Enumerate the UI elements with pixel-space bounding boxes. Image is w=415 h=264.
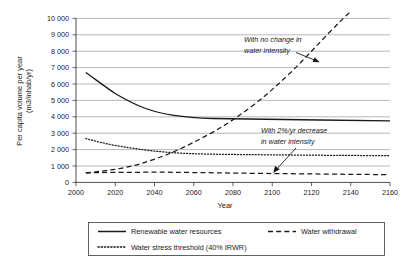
y-tick-label: 1 000 — [51, 162, 69, 171]
y-tick-label: 7 000 — [51, 63, 69, 72]
legend-label-withdrawal: Water withdrawal — [301, 227, 357, 236]
x-tick-label: 2140 — [343, 188, 359, 197]
y-axis — [73, 18, 77, 182]
chart-canvas: 10 000 9 000 8 000 7 000 6 000 5 000 4 0… — [0, 0, 415, 264]
x-tick-label: 2120 — [304, 188, 320, 197]
y-tick-label: 2 000 — [51, 145, 69, 154]
annotation-no-change-line2: water intensity — [244, 46, 290, 55]
x-axis — [76, 182, 390, 186]
legend: Renewable water resources Water withdraw… — [89, 223, 385, 256]
x-tick-label: 2080 — [225, 188, 241, 197]
annotation-no-change: With no change in water intensity — [244, 35, 320, 62]
x-tick-label: 2000 — [68, 188, 84, 197]
y-tick-labels: 10 000 9 000 8 000 7 000 6 000 5 000 4 0… — [47, 14, 69, 187]
y-tick-label: 6 000 — [51, 80, 69, 89]
x-tick-label: 2020 — [107, 188, 123, 197]
annotation-no-change-line1: With no change in — [244, 35, 301, 44]
legend-item-threshold[interactable]: Water stress threshold (40% IRWR) — [98, 243, 247, 252]
annotation-decrease-line1: With 2%/yr decrease — [261, 126, 327, 135]
x-tick-label: 2040 — [147, 188, 163, 197]
legend-label-threshold: Water stress threshold (40% IRWR) — [131, 243, 247, 252]
y-tick-label: 3 000 — [51, 129, 69, 138]
data-series — [86, 12, 390, 175]
y-tick-label: 8 000 — [51, 47, 69, 56]
gridlines — [76, 18, 390, 166]
annotation-no-change-arrowhead — [313, 57, 320, 62]
annotation-decrease-line2: in water intensity — [261, 137, 315, 146]
chart-figure: 10 000 9 000 8 000 7 000 6 000 5 000 4 0… — [0, 0, 415, 264]
y-tick-label: 0 — [65, 178, 69, 187]
water-withdrawal-decrease-series — [86, 172, 388, 174]
renewable-water-resources-series — [86, 73, 390, 121]
x-tick-labels: 2000 2020 2040 2060 2080 2100 2120 2140 … — [68, 188, 398, 197]
x-tick-label: 2100 — [264, 188, 280, 197]
y-tick-label: 10 000 — [47, 14, 69, 23]
legend-item-renewable[interactable]: Renewable water resources — [98, 227, 222, 236]
legend-item-withdrawal[interactable]: Water withdrawal — [268, 227, 357, 236]
annotation-decrease-arrow — [275, 148, 296, 171]
y-tick-label: 5 000 — [51, 96, 69, 105]
y-tick-label: 9 000 — [51, 30, 69, 39]
legend-label-renewable: Renewable water resources — [131, 227, 222, 236]
y-axis-title: Per capita volume per year (m3/inhab/yr) — [15, 54, 33, 146]
x-axis-title: Year — [217, 201, 233, 210]
water-withdrawal-no-change-series — [86, 12, 351, 173]
x-tick-label: 2060 — [186, 188, 202, 197]
water-stress-threshold-series — [86, 139, 390, 156]
y-tick-label: 4 000 — [51, 112, 69, 121]
x-tick-label: 2160 — [382, 188, 398, 197]
